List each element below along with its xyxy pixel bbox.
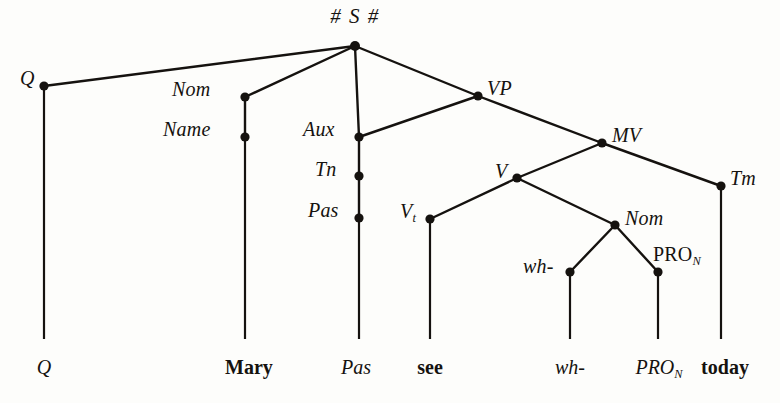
node-dot-name [240, 132, 249, 141]
node-dot-tn [354, 171, 363, 180]
node-dot-nom2 [610, 220, 619, 229]
node-dot-mv [597, 138, 606, 147]
node-label-nom1: Nom [172, 79, 210, 99]
tree-edge-nom2-to-wh [570, 225, 615, 272]
node-dot-tm [716, 181, 725, 190]
tree-edge-vp-to-aux [359, 96, 478, 137]
node-label-name: Name [163, 119, 210, 139]
tree-edge-nom2-to-pron [615, 225, 658, 272]
node-label-wh: wh- [523, 256, 554, 276]
node-label-q: Q [20, 68, 35, 88]
edge-lines [44, 46, 721, 272]
node-label-nom2: Nom [625, 208, 663, 228]
node-dot-pron [653, 267, 662, 276]
tree-edge-vp-to-mv [478, 96, 602, 143]
term-today: today [701, 357, 749, 377]
node-label-vt: Vt [400, 201, 416, 221]
tree-edge-mv-to-v [517, 143, 602, 178]
term-q: Q [37, 357, 51, 377]
tree-edge-root-to-aux [355, 46, 359, 137]
node-dot-v [512, 173, 521, 182]
node-dot-vt [425, 214, 434, 223]
term-mary: Mary [225, 357, 273, 377]
node-label-pas: Pas [308, 200, 339, 220]
term-see: see [417, 357, 443, 377]
node-dot-root [350, 41, 360, 51]
tree-edge-root-to-vp [355, 46, 478, 96]
tree-edges-layer [0, 0, 780, 403]
node-label-mv: MV [612, 125, 641, 145]
node-label-tn: Tn [315, 159, 337, 179]
node-dot-wh [565, 267, 574, 276]
node-label-pron: PRON [653, 244, 701, 264]
tree-edge-mv-to-tm [602, 143, 721, 186]
node-dot-aux [354, 132, 363, 141]
syntax-tree-diagram: # S # QNomNameAuxTnPasVPMVVVtTmNomwh-PRO… [0, 0, 780, 403]
node-dot-pas [354, 213, 363, 222]
tree-edge-v-to-vt [430, 178, 517, 219]
node-label-aux: Aux [303, 119, 335, 139]
term-pron: PRON [635, 357, 682, 377]
term-pas: Pas [341, 357, 371, 377]
tree-edge-v-to-nom2 [517, 178, 615, 225]
node-label-vp: VP [487, 78, 512, 98]
node-dot-nom1 [240, 92, 249, 101]
term-wh: wh- [555, 357, 585, 377]
node-label-root: # S # [330, 6, 380, 27]
node-label-v: V [495, 161, 507, 181]
tree-node-dots [39, 41, 725, 277]
node-label-tm: Tm [730, 168, 756, 188]
node-dot-vp [473, 91, 482, 100]
node-dot-q [39, 81, 48, 90]
